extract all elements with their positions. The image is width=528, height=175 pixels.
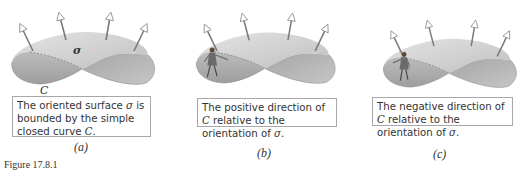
surface-sigma-label: σ: [73, 44, 81, 57]
caption-box-b: The positive direction of C relative to …: [197, 98, 337, 127]
oriented-surface-diagram: [0, 0, 175, 95]
panel-b: The positive direction of C relative to …: [185, 0, 355, 160]
panel-a: σ C The oriented surface σ is bounded by…: [0, 0, 175, 160]
sub-label-a: (a): [74, 140, 88, 155]
caption-box-a: The oriented surface σ is bounded by the…: [12, 96, 151, 137]
sub-label-b: (b): [257, 146, 271, 161]
panel-c: The negative direction of C relative to …: [365, 0, 528, 160]
positive-direction-diagram: [185, 0, 355, 95]
negative-direction-diagram: [365, 0, 528, 95]
sub-label-c: (c): [433, 147, 446, 162]
caption-box-c: The negative direction of C relative to …: [372, 97, 513, 126]
figure-label: Figure 17.8.1: [4, 159, 58, 170]
